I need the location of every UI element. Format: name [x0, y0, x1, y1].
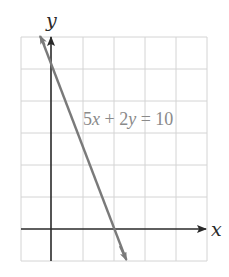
equation-var-x: x: [91, 109, 100, 129]
x-axis-label: x: [211, 218, 222, 240]
graph-line-5x-2y-10-end: [120, 246, 127, 260]
coordinate-plane: x y 5x + 2y = 10: [0, 0, 229, 277]
equation-label: 5x + 2y = 10: [83, 109, 173, 129]
equation-op: +: [100, 109, 119, 129]
y-axis-label: y: [45, 9, 57, 31]
equation-rhs: = 10: [136, 109, 173, 129]
equation-coef1: 5: [83, 109, 92, 129]
equation-var-y: y: [126, 109, 136, 129]
equation-coef2: 2: [119, 109, 128, 129]
